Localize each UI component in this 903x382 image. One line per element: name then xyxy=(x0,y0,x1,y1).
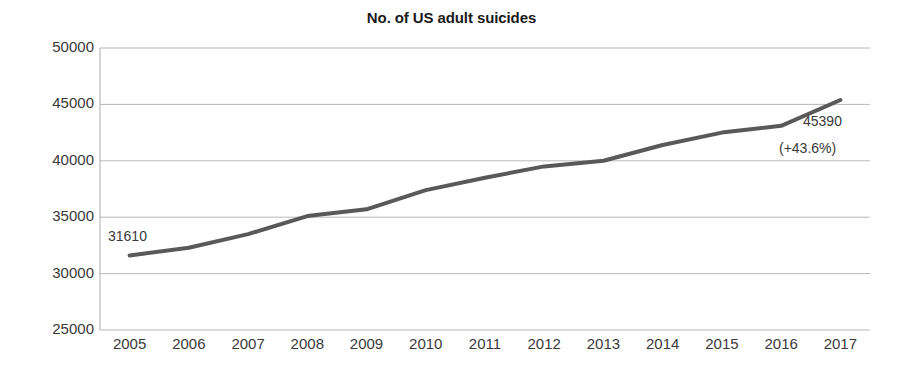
x-axis-tick-label: 2011 xyxy=(455,335,515,352)
gridlines-group xyxy=(100,48,870,330)
y-axis-tick-label: 30000 xyxy=(10,264,94,281)
y-axis-tick-label: 45000 xyxy=(10,94,94,111)
first-point-value-label: 31610 xyxy=(108,228,147,244)
x-axis-tick-label: 2012 xyxy=(514,335,574,352)
data-series-line xyxy=(130,100,841,255)
x-axis-tick-label: 2017 xyxy=(810,335,870,352)
x-axis-tick-label: 2013 xyxy=(573,335,633,352)
x-axis-tick-label: 2008 xyxy=(277,335,337,352)
x-axis-tick-label: 2016 xyxy=(751,335,811,352)
last-point-value-label: 45390 xyxy=(803,113,842,129)
last-point-percent-change-label: (+43.6%) xyxy=(779,140,836,156)
chart-plot-area xyxy=(0,0,903,382)
y-axis-tick-label: 40000 xyxy=(10,151,94,168)
chart-container: No. of US adult suicides 500004500040000… xyxy=(0,0,903,382)
y-axis-tick-label: 50000 xyxy=(10,38,94,55)
x-axis-tick-label: 2009 xyxy=(337,335,397,352)
x-axis-tick-label: 2007 xyxy=(218,335,278,352)
x-axis-tick-label: 2014 xyxy=(633,335,693,352)
x-axis-tick-label: 2005 xyxy=(100,335,160,352)
x-axis-tick-label: 2010 xyxy=(396,335,456,352)
x-axis-tick-label: 2015 xyxy=(692,335,752,352)
y-axis-tick-label: 35000 xyxy=(10,207,94,224)
x-axis-tick-label: 2006 xyxy=(159,335,219,352)
y-axis-tick-label: 25000 xyxy=(10,320,94,337)
